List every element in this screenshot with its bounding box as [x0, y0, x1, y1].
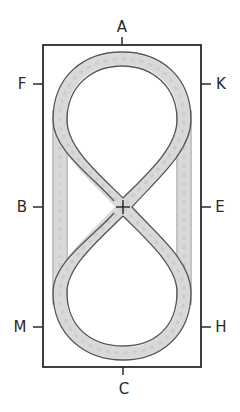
figure-eight-track [53, 52, 191, 360]
marker-label-f: F [18, 75, 27, 93]
marker-label-h: H [215, 318, 226, 336]
arena-diagram: A C F B M K E H [0, 0, 240, 412]
marker-label-c: C [119, 380, 129, 398]
marker-label-a: A [117, 18, 128, 36]
marker-label-e: E [215, 198, 224, 216]
marker-label-m: M [14, 318, 27, 336]
marker-label-k: K [216, 75, 227, 93]
marker-label-b: B [17, 198, 27, 216]
